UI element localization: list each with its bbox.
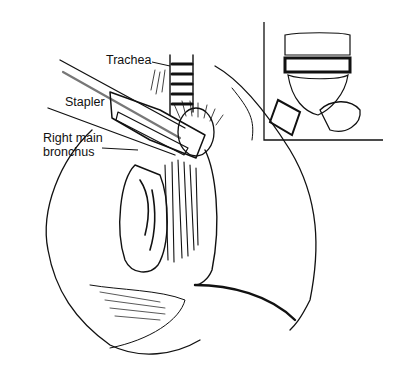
bronchus-label-line1: Right main <box>43 131 103 145</box>
bronchus-label-line2: bronchus <box>43 145 94 159</box>
stapler-shaft-1 <box>60 60 185 128</box>
trachea-label: Trachea <box>106 53 151 67</box>
right-lung-outline <box>215 66 316 330</box>
illustration-canvas: Trachea Stapler Right main bronchus <box>0 0 399 370</box>
stapler-label: Stapler <box>65 95 105 109</box>
inset-panel <box>264 22 383 140</box>
anatomical-drawing <box>0 0 399 370</box>
bronchus-stump <box>120 165 167 272</box>
bronchus-leader <box>102 148 138 150</box>
trachea-leader <box>152 62 170 66</box>
left-lung-outline <box>46 130 200 354</box>
